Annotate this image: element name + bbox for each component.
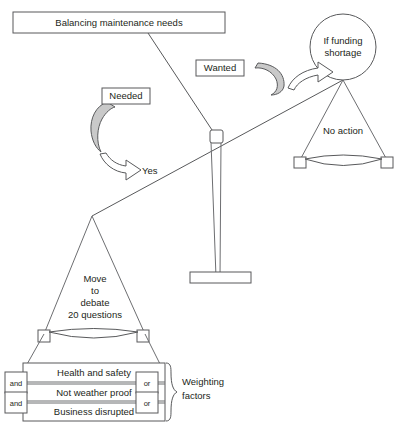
or-connector-label-2: or [144,399,151,408]
right-pan-tray [305,155,382,166]
needed-arrow-icon [100,153,141,180]
left-pan-line-1: Move [83,273,106,284]
weighting-label-line-1: Weighting [182,376,224,387]
needed-ribbon [91,102,115,152]
funding-shortage-line-2: shortage [325,47,362,58]
diagram-canvas: Balancing maintenance needs No action If… [0,0,409,429]
right-pan-cord-right [343,80,387,160]
title-box-label: Balancing maintenance needs [55,17,183,28]
left-pan-tray [49,329,138,339]
left-pan-line-3: debate [80,297,109,308]
wanted-ribbon [255,63,284,95]
left-pan-group: Move to debate 20 questions [26,216,161,366]
pivot-square [210,130,223,143]
yes-label: Yes [142,165,158,176]
needed-label: Needed [109,90,142,101]
title-to-pivot-line [148,33,214,133]
right-pan-left-hook [294,157,306,168]
factor-row-label-2: Not weather proof [56,387,132,398]
title-box-group: Balancing maintenance needs [13,12,225,33]
stand-right-edge [220,142,221,277]
weighting-brace [166,363,177,421]
right-pan-right-hook [381,157,393,168]
factor-row-label-3: Business disrupted [54,406,134,417]
stand-base [190,272,251,283]
needed-annotation-group: Needed Yes [91,88,158,180]
right-pan-group: No action If funding shortage [294,14,393,168]
funding-shortage-line-1: If funding [323,35,362,46]
left-pan-left-hook [38,330,50,342]
left-pan-lower-cord-left [26,334,44,366]
and-connector-label-2: and [10,399,23,408]
and-connector-label-1: and [10,379,23,388]
factor-row-label-1: Health and safety [57,367,131,378]
wanted-annotation-group: Wanted [196,60,333,95]
right-pan-label: No action [323,125,363,136]
title-connector-group [148,33,214,133]
stand-left-edge [211,142,216,277]
wanted-label: Wanted [204,62,236,73]
left-pan-lower-cord-right [145,334,161,366]
or-connector-label-1: or [144,379,151,388]
left-pan-line-4: 20 questions [68,309,122,320]
left-pan-right-hook [137,330,149,342]
left-pan-line-2: to [91,285,99,296]
weighting-label-line-2: factors [182,390,211,401]
fulcrum-group [190,130,251,283]
weighting-factors-group: Health and safety Not weather proof Busi… [5,363,224,421]
balance-scale-diagram: Balancing maintenance needs No action If… [0,0,409,429]
